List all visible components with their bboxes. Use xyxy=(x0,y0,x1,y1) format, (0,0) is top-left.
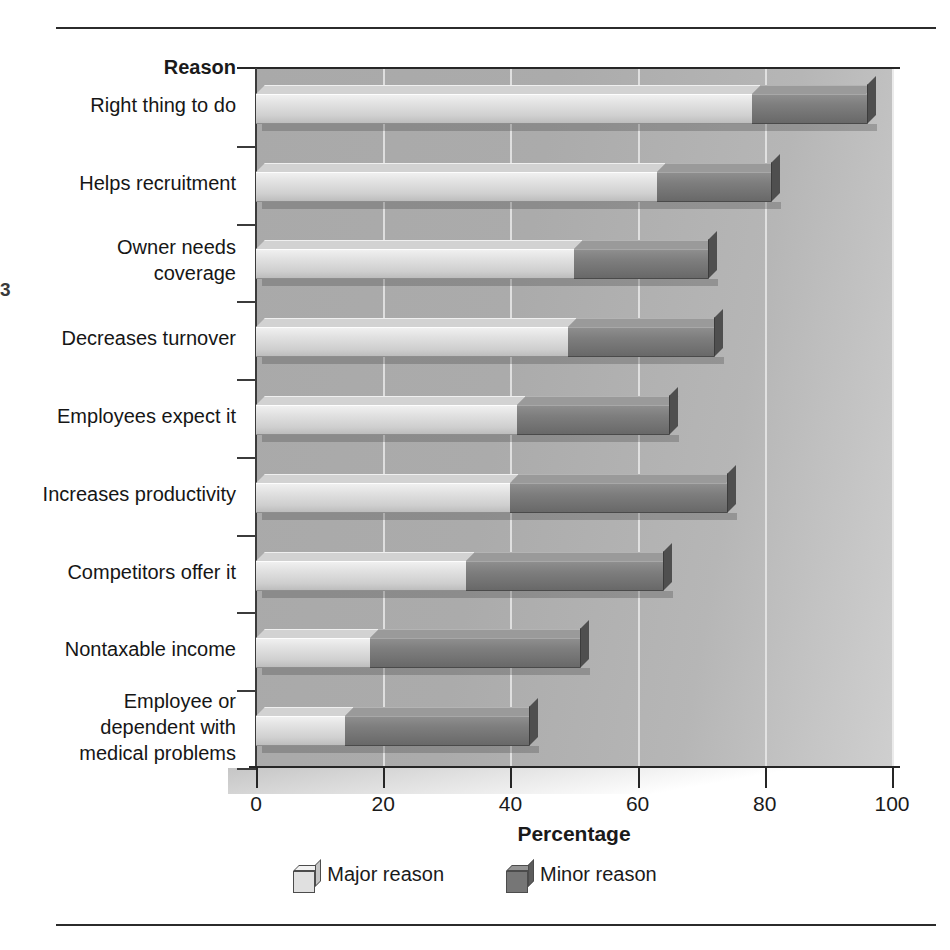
legend-label-1: Minor reason xyxy=(540,863,657,886)
y-tick-7 xyxy=(237,612,256,614)
category-label-7: Nontaxable income xyxy=(65,636,236,662)
bar-shadow-7 xyxy=(262,668,590,675)
bar-top-minor-2 xyxy=(574,240,717,249)
legend-item-0: Major reason xyxy=(293,862,444,887)
y-tick-3 xyxy=(237,301,256,303)
bar-end-cap-0 xyxy=(867,76,876,124)
y-axis-title: Reason xyxy=(164,56,236,79)
x-tick-100 xyxy=(892,766,894,788)
bar-top-major-0 xyxy=(256,85,761,94)
x-tick-label-20: 20 xyxy=(372,792,395,816)
bar-shadow-1 xyxy=(262,202,781,209)
bar-top-major-7 xyxy=(256,629,379,638)
category-label-6: Competitors offer it xyxy=(67,559,236,585)
bar-segment-minor-6 xyxy=(466,561,663,591)
legend-swatch-major-icon xyxy=(293,865,315,887)
bar-8 xyxy=(256,716,529,746)
bar-segment-major-4 xyxy=(256,405,517,435)
bar-4 xyxy=(256,405,669,435)
bar-segment-minor-2 xyxy=(574,249,708,279)
bar-6 xyxy=(256,561,663,591)
x-tick-80 xyxy=(765,766,767,788)
y-tick-2 xyxy=(237,224,256,226)
axis-value-line xyxy=(249,766,900,768)
x-tick-label-80: 80 xyxy=(753,792,776,816)
y-tick-8 xyxy=(237,690,256,692)
bar-top-major-3 xyxy=(256,318,577,327)
legend-cube-front xyxy=(293,871,315,893)
page-rule-bottom xyxy=(56,924,936,926)
y-tick-6 xyxy=(237,535,256,537)
legend-item-1: Minor reason xyxy=(506,862,657,887)
chart-legend: Major reasonMinor reason xyxy=(0,862,950,887)
category-label-5: Increases productivity xyxy=(43,481,236,507)
bar-top-minor-6 xyxy=(466,552,672,561)
legend-swatch-minor-icon xyxy=(506,865,528,887)
bar-top-minor-5 xyxy=(510,474,735,483)
bar-segment-major-1 xyxy=(256,172,657,202)
bar-shadow-0 xyxy=(262,124,877,131)
x-tick-label-0: 0 xyxy=(250,792,262,816)
margin-artifact: 3 xyxy=(0,279,11,301)
y-tick-1 xyxy=(237,146,256,148)
bar-segment-minor-3 xyxy=(568,327,714,357)
bar-end-cap-5 xyxy=(727,465,736,513)
bar-top-major-5 xyxy=(256,474,519,483)
gridline-100 xyxy=(892,68,894,768)
bar-top-minor-7 xyxy=(370,629,589,638)
legend-cube-side xyxy=(315,859,321,887)
bar-segment-minor-7 xyxy=(370,638,580,668)
bar-segment-minor-1 xyxy=(657,172,771,202)
category-label-2: Owner needs coverage xyxy=(117,234,236,286)
bar-top-minor-4 xyxy=(517,396,679,405)
x-tick-0 xyxy=(256,766,258,788)
page-rule-top xyxy=(56,27,936,29)
bar-7 xyxy=(256,638,580,668)
legend-cube-front xyxy=(506,871,528,893)
bar-top-minor-1 xyxy=(657,163,780,172)
x-tick-label-60: 60 xyxy=(626,792,649,816)
bar-shadow-5 xyxy=(262,513,737,520)
bar-top-major-1 xyxy=(256,163,666,172)
bar-1 xyxy=(256,172,771,202)
bar-segment-minor-8 xyxy=(345,716,529,746)
bar-segment-major-5 xyxy=(256,483,510,513)
category-label-1: Helps recruitment xyxy=(79,170,236,196)
bar-shadow-3 xyxy=(262,357,724,364)
bar-segment-major-6 xyxy=(256,561,466,591)
x-axis-title: Percentage xyxy=(256,822,892,846)
x-tick-60 xyxy=(638,766,640,788)
bar-top-minor-0 xyxy=(752,85,875,94)
bar-segment-major-2 xyxy=(256,249,574,279)
bar-segment-minor-0 xyxy=(752,94,866,124)
bar-top-minor-8 xyxy=(345,707,538,716)
y-tick-5 xyxy=(237,457,256,459)
bar-shadow-8 xyxy=(262,746,539,753)
bar-5 xyxy=(256,483,727,513)
bar-top-major-4 xyxy=(256,396,526,405)
y-tick-9 xyxy=(237,768,256,770)
chart-page: 3 Reason 020406080100 Right thing to doH… xyxy=(0,0,950,950)
x-tick-label-100: 100 xyxy=(874,792,909,816)
x-tick-40 xyxy=(510,766,512,788)
bar-top-major-6 xyxy=(256,552,475,561)
bar-3 xyxy=(256,327,714,357)
x-tick-label-40: 40 xyxy=(499,792,522,816)
bar-segment-major-8 xyxy=(256,716,345,746)
legend-cube-side xyxy=(528,859,534,887)
category-label-4: Employees expect it xyxy=(57,403,236,429)
legend-label-0: Major reason xyxy=(327,863,444,886)
category-label-3: Decreases turnover xyxy=(61,325,236,351)
bar-2 xyxy=(256,249,708,279)
x-tick-20 xyxy=(383,766,385,788)
bar-segment-major-3 xyxy=(256,327,568,357)
category-label-0: Right thing to do xyxy=(90,92,236,118)
bar-segment-major-7 xyxy=(256,638,370,668)
bar-shadow-4 xyxy=(262,435,679,442)
bar-segment-major-0 xyxy=(256,94,752,124)
category-label-8: Employee or dependent with medical probl… xyxy=(79,688,236,766)
bar-top-minor-3 xyxy=(568,318,723,327)
bar-0 xyxy=(256,94,867,124)
axis-top-line xyxy=(237,67,900,69)
bar-shadow-6 xyxy=(262,591,673,598)
